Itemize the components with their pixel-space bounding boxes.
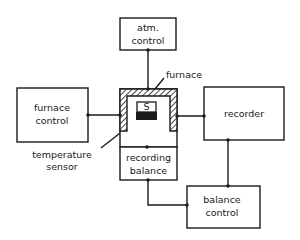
temperature-sensor-label-2: sensor [46, 161, 78, 172]
balance-control-label-2: control [206, 207, 239, 218]
atm-control-label-2: control [132, 35, 165, 46]
wire-balance-to-balance-control [148, 180, 187, 205]
recorder-label: recorder [224, 108, 264, 119]
atm-control-block: atm. control [120, 18, 176, 50]
atm-control-label-1: atm. [137, 22, 159, 33]
balance-control-label-1: balance [203, 194, 241, 205]
recording-balance-block: recording balance [120, 147, 177, 180]
furnace: S [120, 89, 177, 147]
furnace-control-label-2: control [36, 115, 69, 126]
furnace-control-label-1: furnace [34, 102, 70, 113]
sample-label: S [143, 101, 149, 112]
recorder-block: recorder [204, 87, 284, 140]
recording-balance-label-2: balance [130, 165, 168, 176]
temperature-sensor-label-1: temperature [32, 149, 92, 160]
furnace-control-block: furnace control [17, 88, 88, 142]
thermogravimetric-block-diagram: atm. control furnace furnace control S r… [0, 0, 300, 240]
recording-balance-label-1: recording [126, 152, 171, 163]
sample-holder [136, 112, 157, 120]
furnace-label: furnace [166, 69, 202, 80]
furnace-leader [155, 78, 164, 89]
balance-control-block: balance control [187, 186, 260, 228]
